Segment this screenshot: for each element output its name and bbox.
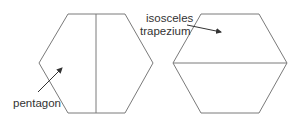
diagram-canvas: pentagon isosceles trapezium [0, 0, 304, 123]
pentagon-label: pentagon [13, 97, 61, 109]
trapezium-label-line2: trapezium [140, 25, 191, 37]
right-hexagon: isosceles trapezium [140, 12, 287, 113]
pentagon-arrow-icon [38, 68, 62, 92]
trapezium-arrow-icon [187, 25, 221, 32]
trapezium-label-line1: isosceles [146, 12, 194, 24]
left-hexagon: pentagon [13, 14, 153, 113]
